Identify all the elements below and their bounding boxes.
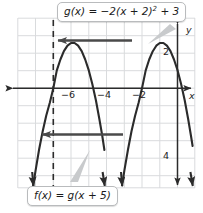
parabola-f-left-arrow bbox=[32, 172, 33, 186]
x-tick-label-neg2: −2 bbox=[132, 89, 146, 100]
callout-g-body-post: + 3 bbox=[157, 5, 179, 17]
callout-f-equation: f(x) = g(x + 5) bbox=[27, 186, 118, 206]
x-tick-label-neg6: −6 bbox=[61, 89, 75, 100]
parabola-g-left-arrow bbox=[121, 172, 122, 186]
y-tick-label-2: 2 bbox=[163, 46, 169, 57]
y-axis-label: y bbox=[186, 24, 192, 35]
callout-g-equation: g(x) = −2(x + 2)2 + 3 bbox=[57, 2, 186, 22]
graph-figure: −6 −4 −2 2 4 x y g(x) = −2(x + 2)2 + 3 f… bbox=[0, 0, 203, 213]
callout-g-body-pre: −2(x + 2) bbox=[101, 5, 153, 17]
coordinate-plane bbox=[0, 0, 203, 213]
callout-g-fn: g(x) bbox=[64, 5, 85, 17]
y-tick-label-4: 4 bbox=[163, 150, 169, 161]
callout-g-eq: = bbox=[85, 5, 100, 17]
x-tick-label-neg4: −4 bbox=[97, 89, 111, 100]
x-axis-label: x bbox=[189, 90, 195, 101]
